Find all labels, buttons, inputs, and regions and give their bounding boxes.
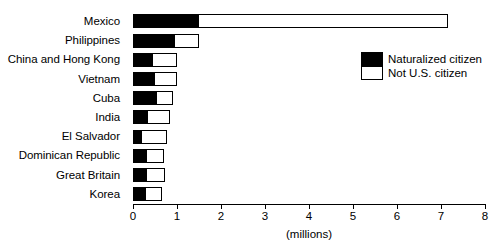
bar-row — [133, 166, 485, 185]
x-axis-tick — [485, 204, 486, 209]
stacked-bar — [133, 149, 164, 163]
stacked-bar-chart: MexicoPhilippinesChina and Hong KongViet… — [0, 0, 495, 252]
bar-segment-naturalized-citizen — [134, 131, 142, 143]
bar-row — [133, 89, 485, 108]
x-axis-tick-label: 3 — [250, 210, 280, 222]
legend-label: Not U.S. citizen — [383, 66, 467, 80]
x-axis-tick-label: 0 — [118, 210, 148, 222]
stacked-bar — [133, 187, 162, 201]
category-label: Philippines — [0, 31, 126, 50]
x-axis-tick-label: 5 — [338, 210, 368, 222]
stacked-bar — [133, 110, 170, 124]
bar-row — [133, 127, 485, 146]
category-label: India — [0, 108, 126, 127]
stacked-bar — [133, 130, 167, 144]
stacked-bar — [133, 14, 448, 28]
legend-item: Naturalized citizen — [361, 52, 482, 66]
bar-segment-naturalized-citizen — [134, 54, 153, 66]
x-axis-tick-label: 8 — [470, 210, 495, 222]
category-label: Dominican Republic — [0, 146, 126, 165]
bar-segment-naturalized-citizen — [134, 111, 148, 123]
bar-segment-naturalized-citizen — [134, 169, 147, 181]
category-label: Cuba — [0, 89, 126, 108]
category-label: El Salvador — [0, 127, 126, 146]
x-axis-tick — [221, 204, 222, 209]
x-axis-tick-label: 1 — [162, 210, 192, 222]
x-axis-tick-label: 7 — [426, 210, 456, 222]
x-axis-tick — [265, 204, 266, 209]
bar-segment-naturalized-citizen — [134, 35, 175, 47]
legend-label: Naturalized citizen — [383, 52, 482, 66]
stacked-bar — [133, 168, 165, 182]
category-label: China and Hong Kong — [0, 50, 126, 69]
stacked-bar — [133, 34, 199, 48]
category-label: Great Britain — [0, 166, 126, 185]
x-axis-tick-label: 6 — [382, 210, 412, 222]
legend-item: Not U.S. citizen — [361, 66, 482, 80]
bar-segment-naturalized-citizen — [134, 15, 199, 27]
chart-legend: Naturalized citizenNot U.S. citizen — [361, 52, 482, 80]
bar-row — [133, 108, 485, 127]
x-axis-tick — [133, 204, 134, 209]
x-axis-tick — [309, 204, 310, 209]
category-label: Vietnam — [0, 70, 126, 89]
x-axis-tick — [397, 204, 398, 209]
category-label: Mexico — [0, 12, 126, 31]
bar-segment-naturalized-citizen — [134, 188, 146, 200]
bar-row — [133, 31, 485, 50]
x-axis-tick-label: 4 — [294, 210, 324, 222]
x-axis-tick-label: 2 — [206, 210, 236, 222]
category-axis-labels: MexicoPhilippinesChina and Hong KongViet… — [0, 12, 126, 204]
x-axis-title: (millions) — [133, 228, 485, 240]
x-axis-tick — [353, 204, 354, 209]
stacked-bar — [133, 53, 177, 67]
x-axis-tick — [441, 204, 442, 209]
bar-segment-naturalized-citizen — [134, 92, 157, 104]
bar-row — [133, 146, 485, 165]
legend-swatch-empty — [361, 66, 383, 80]
x-axis-tick — [177, 204, 178, 209]
legend-swatch-filled — [361, 52, 383, 66]
bar-segment-naturalized-citizen — [134, 73, 155, 85]
stacked-bar — [133, 91, 173, 105]
bar-row — [133, 185, 485, 204]
bar-row — [133, 12, 485, 31]
bar-segment-naturalized-citizen — [134, 150, 147, 162]
plot-area — [133, 12, 485, 204]
category-label: Korea — [0, 185, 126, 204]
stacked-bar — [133, 72, 177, 86]
